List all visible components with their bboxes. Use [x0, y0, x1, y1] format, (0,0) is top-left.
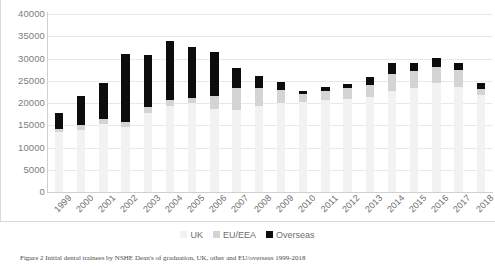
bar-segment-uk — [121, 127, 129, 192]
bar-segment-uk — [255, 106, 263, 192]
bar-slot — [92, 14, 114, 192]
y-axis-tick-label: 30000 — [3, 54, 45, 64]
bar-slot — [115, 14, 137, 192]
bar-segment-overseas — [232, 68, 240, 88]
y-axis-tick-label: 0 — [3, 187, 45, 197]
bar-segment-uk — [366, 97, 374, 192]
x-axis-tick-label: 2000 — [70, 194, 92, 212]
y-axis-tick-label: 40000 — [3, 9, 45, 19]
bar-segment-overseas — [166, 41, 174, 101]
y-axis-tick-label: 5000 — [3, 165, 45, 175]
stacked-bar[interactable] — [321, 87, 329, 192]
legend-label: UK — [190, 229, 203, 241]
legend-item[interactable]: UK — [180, 228, 203, 241]
bar-segment-uk — [188, 103, 196, 192]
x-axis-tick-label: 2005 — [181, 194, 203, 212]
bar-slot — [292, 14, 314, 192]
bar-segment-overseas — [432, 58, 440, 67]
bar-slot — [137, 14, 159, 192]
x-axis-tick-label: 2016 — [425, 194, 447, 212]
bar-segment-uk — [99, 124, 107, 192]
legend-item[interactable]: Overseas — [266, 228, 315, 241]
bar-slot — [359, 14, 381, 192]
x-axis-tick-label: 2011 — [314, 194, 336, 212]
x-axis-tick-label: 1999 — [48, 194, 70, 212]
figure-caption: Figure 2 Initial dental trainees by NSHE… — [20, 254, 480, 266]
stacked-bar[interactable] — [477, 83, 485, 192]
bar-segment-uk — [321, 100, 329, 192]
bar-segment-overseas — [454, 63, 462, 71]
bar-segment-eu-eea — [232, 88, 240, 110]
stacked-bar[interactable] — [432, 58, 440, 192]
bar-segment-uk — [232, 110, 240, 192]
legend-swatch-icon — [266, 231, 273, 238]
stacked-bar[interactable] — [454, 63, 462, 192]
stacked-bar[interactable] — [410, 63, 418, 192]
bar-segment-overseas — [77, 96, 85, 124]
bar-segment-uk — [388, 91, 396, 192]
bar-segment-overseas — [210, 52, 218, 96]
bars-container — [48, 14, 492, 192]
stacked-bar[interactable] — [55, 113, 63, 192]
x-axis: 1999200020012002200320042005200620072008… — [48, 194, 492, 224]
bar-segment-uk — [477, 95, 485, 192]
bar-segment-uk — [299, 102, 307, 192]
chart-legend: UKEU/EEAOverseas — [0, 228, 495, 241]
x-axis-tick-text: 2018 — [474, 193, 495, 215]
bar-segment-eu-eea — [432, 67, 440, 84]
y-axis-tick-label: 10000 — [3, 143, 45, 153]
bar-segment-overseas — [366, 77, 374, 85]
bar-segment-uk — [277, 103, 285, 192]
bar-segment-overseas — [255, 76, 263, 88]
x-axis-tick-label: 2003 — [137, 194, 159, 212]
bar-segment-uk — [454, 87, 462, 192]
stacked-bar[interactable] — [255, 76, 263, 192]
stacked-bar[interactable] — [77, 96, 85, 192]
stacked-bar[interactable] — [232, 68, 240, 192]
legend-swatch-icon — [180, 231, 187, 238]
stacked-bar[interactable] — [121, 54, 129, 192]
legend-item[interactable]: EU/EEA — [213, 228, 256, 241]
figure-container: 4000035000300002500020000150001000050000… — [0, 0, 495, 266]
stacked-bar[interactable] — [210, 52, 218, 192]
x-axis-tick-label: 2014 — [381, 194, 403, 212]
bar-segment-uk — [343, 99, 351, 192]
stacked-bar[interactable] — [99, 83, 107, 192]
bar-segment-eu-eea — [366, 85, 374, 97]
y-axis: 4000035000300002500020000150001000050000 — [1, 0, 45, 222]
bar-slot — [48, 14, 70, 192]
bar-segment-eu-eea — [410, 71, 418, 88]
bar-segment-overseas — [99, 83, 107, 119]
x-axis-tick-label: 2004 — [159, 194, 181, 212]
bar-segment-eu-eea — [255, 88, 263, 106]
stacked-bar[interactable] — [144, 55, 152, 192]
chart-plot-area: 4000035000300002500020000150001000050000… — [0, 0, 495, 222]
stacked-bar[interactable] — [343, 84, 351, 192]
bar-segment-uk — [210, 109, 218, 192]
x-axis-tick-label: 2001 — [92, 194, 114, 212]
y-axis-tick-label: 35000 — [3, 31, 45, 41]
bar-slot — [403, 14, 425, 192]
x-axis-tick-label: 2012 — [337, 194, 359, 212]
stacked-bar[interactable] — [388, 63, 396, 192]
bar-slot — [425, 14, 447, 192]
bar-segment-uk — [55, 132, 63, 192]
bar-segment-uk — [166, 106, 174, 192]
x-axis-tick-label: 2015 — [403, 194, 425, 212]
x-axis-tick-label: 2002 — [115, 194, 137, 212]
bar-segment-eu-eea — [343, 88, 351, 99]
x-axis-tick-label: 2008 — [248, 194, 270, 212]
bar-segment-overseas — [55, 113, 63, 129]
bar-segment-uk — [77, 130, 85, 192]
bar-segment-eu-eea — [277, 90, 285, 103]
stacked-bar[interactable] — [166, 41, 174, 192]
stacked-bar[interactable] — [277, 82, 285, 192]
stacked-bar[interactable] — [299, 91, 307, 192]
x-axis-tick-label: 2006 — [203, 194, 225, 212]
stacked-bar[interactable] — [366, 77, 374, 192]
bar-segment-overseas — [388, 63, 396, 75]
stacked-bar[interactable] — [188, 47, 196, 193]
x-axis-line — [47, 192, 493, 193]
bar-segment-uk — [410, 88, 418, 192]
bar-slot — [203, 14, 225, 192]
